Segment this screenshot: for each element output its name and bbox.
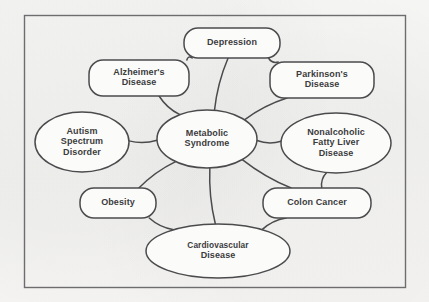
node-label-autism: Autism [66, 126, 97, 136]
node-metabolic-syndrome[interactable]: MetabolicSyndrome [157, 110, 257, 168]
edge-depression-alzheimers [187, 57, 192, 60]
node-label-cardiovascular: Cardiovascular [187, 240, 249, 250]
edge-metabolic-nafld [257, 141, 281, 143]
node-autism[interactable]: AutismSpectrumDisorder [35, 112, 129, 172]
node-label-cardiovascular: Disease [201, 250, 236, 260]
comorbidity-network-diagram: DepressionAlzheimer'sDiseaseParkinson'sD… [0, 0, 429, 302]
node-label-obesity: Obesity [101, 197, 135, 207]
node-label-parkinsons: Parkinson's [296, 69, 348, 79]
node-colon-cancer[interactable]: Colon Cancer [263, 188, 371, 218]
node-label-nafld: Fatty Liver [313, 137, 360, 147]
node-parkinsons[interactable]: Parkinson'sDisease [270, 62, 374, 98]
node-alzheimers[interactable]: Alzheimer'sDisease [89, 60, 189, 96]
node-label-nafld: Nonalcoholic [307, 127, 365, 137]
edge-metabolic-colon [242, 160, 291, 188]
node-label-autism: Disorder [63, 147, 101, 157]
edge-depression-metabolic [214, 58, 228, 110]
edge-parkinsons-metabolic [244, 98, 286, 120]
node-label-metabolic-syndrome: Syndrome [185, 138, 230, 148]
node-depression[interactable]: Depression [184, 28, 280, 58]
node-label-nafld: Disease [319, 148, 354, 158]
node-cardiovascular[interactable]: CardiovascularDisease [146, 224, 290, 278]
node-label-alzheimers: Disease [122, 77, 157, 87]
node-nafld[interactable]: NonalcoholicFatty LiverDisease [281, 113, 391, 173]
nodes-layer: DepressionAlzheimer'sDiseaseParkinson'sD… [35, 28, 391, 278]
node-label-parkinsons: Disease [305, 79, 340, 89]
edge-nafld-colon [322, 173, 327, 188]
node-label-colon-cancer: Colon Cancer [287, 197, 347, 207]
edge-metabolic-cardiovascular [210, 168, 216, 224]
edge-metabolic-obesity [139, 162, 176, 188]
node-obesity[interactable]: Obesity [80, 188, 156, 218]
edge-obesity-cardiovascular [149, 218, 173, 230]
node-label-metabolic-syndrome: Metabolic [186, 128, 228, 138]
edge-alzheimers-metabolic [159, 96, 180, 115]
diagram-canvas: DepressionAlzheimer'sDiseaseParkinson'sD… [0, 0, 429, 302]
node-label-alzheimers: Alzheimer's [113, 67, 164, 77]
node-label-depression: Depression [207, 37, 257, 47]
edge-autism-metabolic [129, 140, 157, 142]
edge-depression-parkinsons [268, 58, 278, 62]
node-label-autism: Spectrum [61, 136, 103, 146]
edge-colon-cardiovascular [262, 218, 286, 230]
